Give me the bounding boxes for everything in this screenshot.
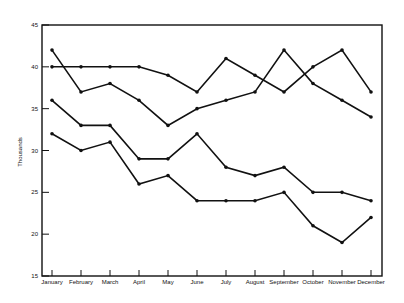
data-point <box>137 65 141 69</box>
data-point <box>79 149 83 153</box>
data-point <box>369 90 373 94</box>
x-tick-label: September <box>269 279 298 285</box>
data-point <box>50 99 54 103</box>
x-tick-label: June <box>190 279 204 285</box>
data-point <box>137 99 141 103</box>
data-point <box>282 191 286 195</box>
data-point <box>282 48 286 52</box>
y-tick-label: 40 <box>31 64 38 70</box>
data-point <box>108 82 112 86</box>
data-point <box>166 157 170 161</box>
y-axis-title: Thousands <box>17 137 23 167</box>
x-axis: JanuaryFebruaryMarchAprilMayJuneJulyAugu… <box>41 270 385 285</box>
data-point <box>340 191 344 195</box>
data-point <box>282 90 286 94</box>
data-point <box>166 73 170 77</box>
x-tick-label: December <box>357 279 385 285</box>
series-4 <box>50 132 373 244</box>
data-point <box>79 124 83 128</box>
line-chart: 15202530354045 JanuaryFebruaryMarchApril… <box>0 0 404 303</box>
data-point <box>311 224 315 228</box>
data-point <box>166 124 170 128</box>
data-point <box>369 115 373 119</box>
data-point <box>50 132 54 136</box>
x-tick-label: November <box>328 279 356 285</box>
data-point <box>253 73 257 77</box>
y-tick-label: 30 <box>31 148 38 154</box>
series-layer <box>50 48 373 244</box>
x-tick-label: February <box>69 279 93 285</box>
y-tick-label: 45 <box>31 22 38 28</box>
y-tick-label: 20 <box>31 231 38 237</box>
data-point <box>311 191 315 195</box>
series-3 <box>50 99 373 203</box>
data-point <box>195 132 199 136</box>
data-point <box>195 107 199 111</box>
data-point <box>224 165 228 169</box>
x-tick-label: April <box>133 279 145 285</box>
data-point <box>282 165 286 169</box>
data-point <box>166 174 170 178</box>
data-point <box>137 157 141 161</box>
data-point <box>340 241 344 245</box>
y-tick-label: 15 <box>31 273 38 279</box>
data-point <box>79 65 83 69</box>
data-point <box>79 90 83 94</box>
x-tick-label: October <box>302 279 323 285</box>
data-point <box>369 216 373 220</box>
data-point <box>50 65 54 69</box>
series-line <box>52 100 371 200</box>
y-tick-label: 25 <box>31 189 38 195</box>
data-point <box>224 99 228 103</box>
x-tick-label: January <box>41 279 62 285</box>
data-point <box>108 140 112 144</box>
data-point <box>50 48 54 52</box>
data-point <box>108 124 112 128</box>
data-point <box>253 90 257 94</box>
data-point <box>253 174 257 178</box>
x-tick-label: May <box>162 279 173 285</box>
y-tick-label: 35 <box>31 106 38 112</box>
data-point <box>311 82 315 86</box>
x-tick-label: July <box>221 279 232 285</box>
data-point <box>224 199 228 203</box>
data-point <box>108 65 112 69</box>
data-point <box>253 199 257 203</box>
data-point <box>340 48 344 52</box>
data-point <box>137 182 141 186</box>
data-point <box>195 199 199 203</box>
y-axis: 15202530354045 <box>31 22 49 279</box>
data-point <box>340 99 344 103</box>
x-tick-label: March <box>102 279 119 285</box>
series-line <box>52 50 371 92</box>
data-point <box>224 57 228 61</box>
x-tick-label: August <box>246 279 265 285</box>
data-point <box>311 65 315 69</box>
data-point <box>369 199 373 203</box>
data-point <box>195 90 199 94</box>
